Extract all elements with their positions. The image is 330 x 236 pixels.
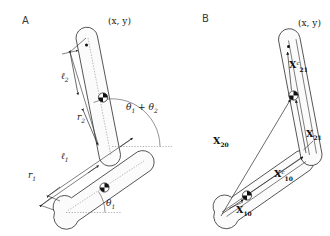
panel-a-link1-com-marker [100, 183, 109, 192]
panel-a-l2-dim-line [70, 52, 78, 94]
panel-a-endpoint-dot [85, 44, 88, 47]
panel-b-letter: B [202, 13, 209, 24]
panel-a-r1-dim-end [88, 166, 98, 173]
panel-a-endpoint-label: (x, y) [108, 16, 131, 26]
panel-a-ext-base-1 [41, 206, 54, 211]
panel-b-link1-body [213, 150, 314, 228]
panel-a-theta12-label: θ1 + θ2 [126, 102, 158, 114]
panel-a-l1-dim-end [120, 139, 132, 148]
panel-b-endpoint-label: (x, y) [298, 18, 321, 28]
panel-b-link2-body [278, 29, 322, 166]
panel-a-l2-label: ℓ2 [61, 71, 69, 83]
panel-a-letter: A [22, 15, 29, 26]
panel-a-r1-label: r1 [28, 170, 36, 182]
panel-b-link1-com-marker [242, 191, 251, 200]
panel-a-r2-label: r2 [77, 112, 85, 124]
panel-a-l1-label: ℓ1 [61, 151, 69, 163]
panel-a: A [22, 15, 172, 229]
panel-a-theta1-label: θ1 [106, 198, 115, 210]
figure-canvas: A [0, 0, 330, 236]
panel-b-link2-com-marker [289, 91, 298, 100]
panel-a-link2-com-marker [98, 93, 107, 102]
panel-b-x20-label: X20 [213, 135, 229, 148]
panel-b-endpoint-dot [287, 45, 290, 48]
figure-root: A [0, 0, 330, 236]
panel-b: B [202, 13, 322, 229]
